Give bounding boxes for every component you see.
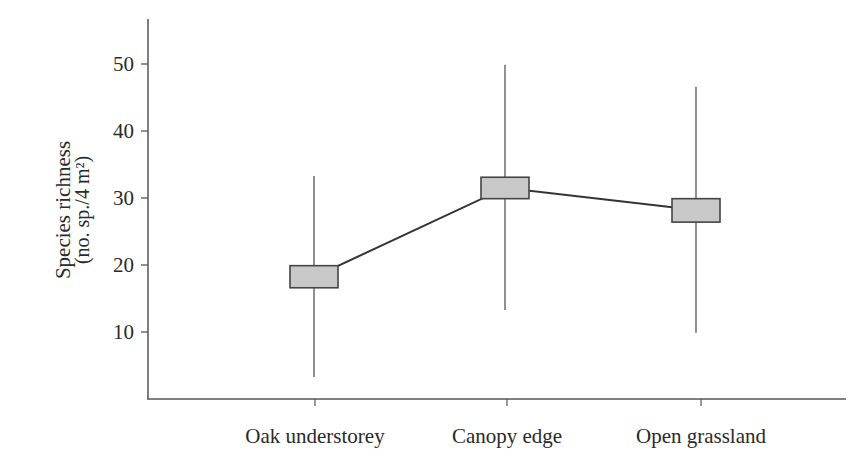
chart: 1020304050 Species richness (no. sp./4 m…	[0, 0, 865, 469]
y-ticks: 1020304050	[113, 52, 148, 344]
y-tick-label: 30	[113, 186, 134, 210]
y-tick-label: 10	[113, 320, 134, 344]
y-tick-label: 20	[113, 253, 134, 277]
x-tick-label: Open grassland	[636, 424, 767, 448]
x-ticks	[315, 399, 701, 406]
mean-box	[481, 177, 529, 198]
y-tick-label: 50	[113, 52, 134, 76]
x-tick-labels: Oak understoreyCanopy edgeOpen grassland	[245, 424, 766, 448]
whiskers	[314, 65, 696, 377]
y-axis-label: Species richness (no. sp./4 m²)	[51, 141, 94, 279]
x-tick-label: Oak understorey	[245, 424, 385, 448]
x-tick-label: Canopy edge	[452, 424, 562, 448]
mean-box	[290, 266, 338, 288]
y-tick-label: 40	[113, 119, 134, 143]
mean-box	[672, 199, 720, 222]
y-axis-label-line2: (no. sp./4 m²)	[71, 156, 94, 264]
